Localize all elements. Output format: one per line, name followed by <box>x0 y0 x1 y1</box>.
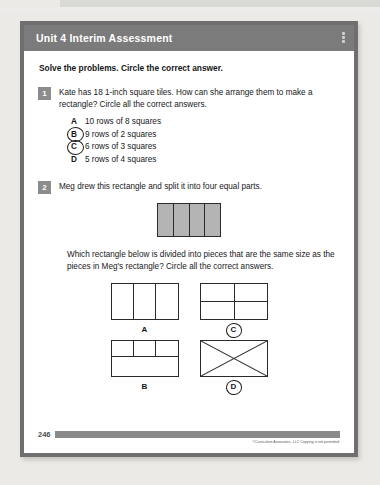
page-title: Unit 4 Interim Assessment <box>36 32 173 44</box>
choice-letter: A <box>67 117 81 126</box>
answer-choice-c[interactable]: C <box>200 283 268 335</box>
choice-letter: B <box>138 381 152 392</box>
document-page: Unit 4 Interim Assessment Solve the prob… <box>24 25 354 453</box>
choice-text: 5 rows of 4 squares <box>85 155 156 164</box>
figure-top-row-thirds-bottom-whole <box>111 340 179 377</box>
choice-letter-circled: C <box>227 324 241 335</box>
answer-choice-b[interactable]: B <box>111 340 179 392</box>
host-app-top-strip <box>60 0 380 7</box>
answer-choice-b[interactable]: B 9 rows of 2 squares <box>67 128 340 141</box>
choice-letter-circled: B <box>67 130 81 139</box>
answer-choice-d[interactable]: D <box>200 340 268 392</box>
answer-choices: A 10 rows of 8 squares B 9 rows of 2 squ… <box>67 115 340 165</box>
vertical-dots-icon[interactable] <box>342 32 345 43</box>
assessment-header: Unit 4 Interim Assessment <box>24 25 354 51</box>
question-2: 2 Meg drew this rectangle and split it i… <box>38 181 340 391</box>
screen: Unit 4 Interim Assessment Solve the prob… <box>0 0 380 485</box>
question-prompt: Meg drew this rectangle and split it int… <box>59 181 262 193</box>
question-number-badge: 1 <box>38 87 51 100</box>
host-app-top-strip-secondary <box>0 7 380 12</box>
megs-rectangle-figure <box>157 203 221 237</box>
answer-choice-a[interactable]: A 10 rows of 8 squares <box>67 115 340 128</box>
choice-letter: A <box>138 324 152 335</box>
copyright-text: ©Curriculum Associates, LLC Copying is n… <box>252 440 340 444</box>
choice-text: 10 rows of 8 squares <box>85 117 161 126</box>
footer-bar: ©Curriculum Associates, LLC Copying is n… <box>55 431 340 438</box>
question-1: 1 Kate has 18 1-inch square tiles. How c… <box>38 87 340 165</box>
diagonal-lines-icon <box>201 341 267 376</box>
page-footer: 246 ©Curriculum Associates, LLC Copying … <box>38 430 340 439</box>
answer-choice-a[interactable]: A <box>111 283 179 335</box>
page-number: 246 <box>38 430 51 439</box>
choice-letter-circled: C <box>67 142 81 151</box>
question-prompt: Kate has 18 1-inch square tiles. How can… <box>59 87 340 110</box>
figure-two-by-two-grid <box>200 283 268 320</box>
choice-text: 9 rows of 2 squares <box>85 130 156 139</box>
directions-text: Solve the problems. Circle the correct a… <box>39 63 340 73</box>
answer-choice-d[interactable]: D 5 rows of 4 squares <box>67 153 340 166</box>
figure-answer-choices: A C <box>38 283 340 392</box>
answer-choice-c[interactable]: C 6 rows of 3 squares <box>67 140 340 153</box>
choice-text: 6 rows of 3 squares <box>85 142 156 151</box>
document-frame: Unit 4 Interim Assessment Solve the prob… <box>20 21 358 457</box>
figure-two-diagonals-x <box>200 340 268 377</box>
choice-letter: D <box>67 155 81 164</box>
question-number-badge: 2 <box>38 181 51 194</box>
page-content: Solve the problems. Circle the correct a… <box>24 51 354 453</box>
figure-three-vertical-parts <box>111 283 179 320</box>
choice-letter-circled: D <box>227 381 241 392</box>
question-subprompt: Which rectangle below is divided into pi… <box>67 249 340 272</box>
